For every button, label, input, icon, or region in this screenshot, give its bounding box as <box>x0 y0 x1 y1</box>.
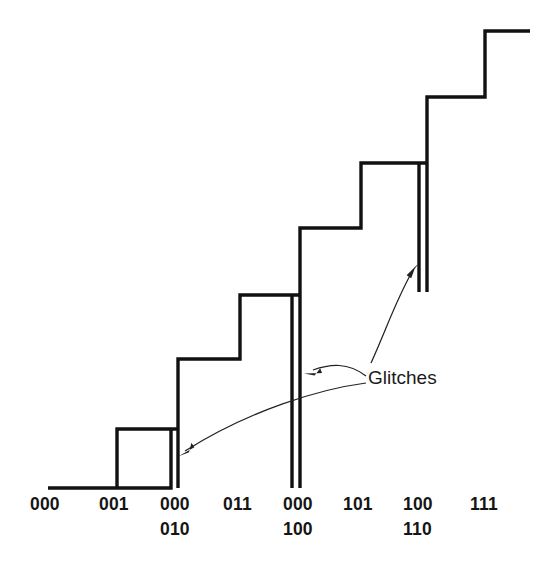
arrow-3-head <box>407 263 419 278</box>
figure-root: 000 001 000 011 000 101 100 111 010 100 … <box>0 0 547 574</box>
staircase-path <box>48 31 530 488</box>
waveform-diagram <box>0 0 547 574</box>
arrow-1-shaft <box>185 383 366 451</box>
glitches-label: Glitches <box>368 368 437 387</box>
arrow-to-glitch-2 <box>304 365 366 376</box>
arrow-2-head <box>304 368 322 375</box>
arrow-to-glitch-1 <box>178 383 366 457</box>
arrow-to-glitch-3 <box>371 263 419 363</box>
staircase-trace <box>48 31 530 488</box>
arrow-3-shaft <box>371 272 412 363</box>
